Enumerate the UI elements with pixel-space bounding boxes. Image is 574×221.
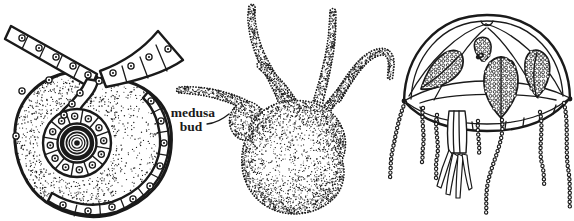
bud-cell-ring: [43, 109, 111, 177]
free-medusa-illustration: [390, 15, 572, 214]
margin-bulb: [568, 97, 573, 102]
illustration-page: medusa bud: [0, 0, 574, 221]
hydrozoan-medusa-development-figure: medusa bud: [0, 0, 574, 221]
medusa-bud-cross-section-illustration: [5, 26, 183, 217]
epithelium-band-right: [100, 31, 183, 87]
margin-bulb: [402, 99, 407, 104]
medusa-bud-label-line2: bud: [180, 119, 203, 134]
medusa-bud-label-line1: medusa: [171, 105, 216, 120]
